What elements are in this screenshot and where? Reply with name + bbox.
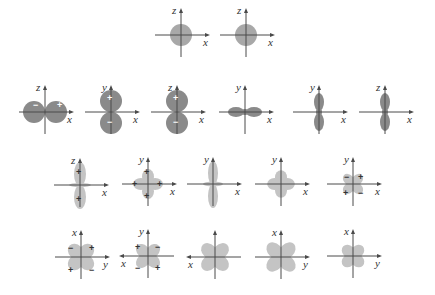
vertical-axis-label: z (70, 154, 76, 166)
arrow-up-icon (279, 230, 283, 235)
orbital-diagram-d-clover-xy-1: xy−++− (55, 226, 110, 279)
minus-sign: − (173, 117, 178, 127)
plus-sign: + (343, 188, 348, 198)
vertical-axis-label: x (343, 225, 349, 237)
horizontal-axis-label: x (198, 113, 204, 125)
plus-sign: + (144, 191, 149, 201)
horizontal-axis-label: x (406, 113, 412, 125)
horizontal-axis-label: y (374, 257, 380, 269)
arrow-up-icon (317, 85, 321, 90)
vertical-axis-label: x (71, 226, 77, 238)
horizontal-axis-label: y (302, 258, 308, 270)
vertical-axis-label: z (35, 81, 41, 93)
arrow-up-icon (79, 230, 83, 235)
orbital-diagram-d-clover-4: xy (255, 226, 310, 279)
orbital-diagram-p-x: zx−+ (19, 81, 74, 134)
orbital-diagram-d-z2: zx++ (54, 154, 109, 209)
plus-sign: + (132, 179, 137, 189)
minus-sign: − (68, 243, 73, 253)
arrow-up-icon (78, 158, 82, 163)
vertical-axis-label: z (167, 81, 173, 93)
horizontal-axis-label: y (102, 258, 108, 270)
plus-sign: + (57, 100, 62, 110)
vertical-axis-label: y (138, 225, 144, 237)
horizontal-axis-label: x (132, 113, 138, 125)
axes: yx (219, 81, 274, 134)
arrow-up-icon (211, 157, 215, 162)
arrow-up-icon (146, 157, 150, 162)
horizontal-axis-label: x (340, 113, 346, 125)
minus-sign: − (155, 242, 160, 252)
orbital-diagram-figure: zxzxzx−+yx+−zx+−yxyxzxzx++yx++++yxyxyx−+… (0, 0, 435, 295)
arrow-up-icon (109, 85, 113, 90)
arrow-up-icon (179, 8, 183, 13)
vertical-axis-label: y (343, 153, 349, 165)
arrow-up-icon (213, 230, 217, 235)
orbital-diagram-p-z-elongated: zx (359, 81, 414, 134)
plus-sign: + (144, 167, 149, 177)
orbital-diagram-p-y: yx+− (85, 81, 140, 134)
orbital-diagram-d-clover-xy-2: yx+−−+ (119, 225, 174, 278)
orbital-diagrams-canvas: zxzxzx−+yx+−zx+−yxyxzxzx++yx++++yxyxyx−+… (0, 0, 435, 295)
horizontal-axis-label: x (101, 186, 107, 198)
horizontal-axis-label: x (374, 185, 380, 197)
horizontal-axis-label: x (66, 113, 72, 125)
orbital-diagram-p-y-elongated: yx (293, 81, 348, 134)
plus-sign: + (107, 93, 112, 103)
arrow-up-icon (351, 157, 355, 162)
horizontal-axis-label: x (266, 113, 272, 125)
vertical-axis-label: z (236, 4, 242, 16)
orbital-diagram-d-cross: yx (255, 153, 310, 206)
plus-sign: + (135, 242, 140, 252)
horizontal-axis-label: x (120, 257, 126, 269)
arrow-up-icon (351, 229, 355, 234)
arrow-up-icon (279, 157, 283, 162)
plus-sign: + (76, 194, 81, 204)
orbital-diagram-d-cross-plus: yx++++ (122, 153, 177, 206)
orbital-diagram-d-vertical-ring: yx (187, 153, 242, 208)
vertical-axis-label: y (138, 153, 144, 165)
orbital-diagram-s-2: zx (220, 4, 275, 57)
minus-sign: − (33, 100, 38, 110)
orbital-diagram-d-clover-3: x (186, 230, 241, 279)
horizontal-axis-label: x (234, 185, 240, 197)
arrow-up-icon (244, 8, 248, 13)
arrow-up-icon (43, 85, 47, 90)
plus-sign: + (358, 172, 363, 182)
arrow-up-icon (146, 229, 150, 234)
vertical-axis-label: y (309, 81, 315, 93)
orbital-diagram-s-1: zx (155, 4, 210, 57)
vertical-axis-label: y (203, 153, 209, 165)
plus-sign: + (173, 93, 178, 103)
vertical-axis-label: z (171, 4, 177, 16)
vertical-axis-label: y (235, 81, 241, 93)
minus-sign: − (89, 265, 94, 275)
arrow-up-icon (383, 85, 387, 90)
minus-sign: − (135, 263, 140, 273)
horizontal-axis-label: x (302, 185, 308, 197)
horizontal-axis-label: x (202, 36, 208, 48)
minus-sign: − (344, 172, 349, 182)
vertical-axis-label: x (271, 226, 277, 238)
minus-sign: − (107, 117, 112, 127)
arrow-up-icon (243, 85, 247, 90)
orbital-diagram-d-clover-5: xy (327, 225, 382, 278)
minus-sign: − (358, 188, 363, 198)
vertical-axis-label: y (271, 153, 277, 165)
plus-sign: + (89, 243, 94, 253)
plus-sign: + (155, 263, 160, 273)
orbital-diagram-d-xy-signed: yx−++− (327, 153, 382, 206)
horizontal-axis-label: x (187, 258, 193, 270)
orbital-diagram-p-x-elongated: yx (219, 81, 274, 134)
plus-sign: + (157, 179, 162, 189)
orbital-diagram-p-z: zx+− (151, 81, 206, 134)
vertical-axis-label: y (101, 81, 107, 93)
arrow-up-icon (175, 85, 179, 90)
plus-sign: + (76, 167, 81, 177)
horizontal-axis-label: x (267, 36, 273, 48)
plus-sign: + (68, 265, 73, 275)
vertical-axis-label: z (375, 81, 381, 93)
horizontal-axis-label: x (169, 185, 175, 197)
